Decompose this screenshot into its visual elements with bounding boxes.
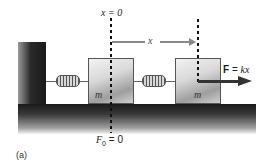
displacement-arrowhead-icon [189, 38, 196, 46]
floor [18, 104, 256, 134]
force-label: F = kx [223, 64, 249, 75]
spring-left-coil [56, 75, 80, 87]
panel-label: (a) [16, 150, 27, 160]
rest-force-label: F0 = 0 [96, 134, 123, 147]
spring-right-coil [142, 75, 166, 87]
mass-label: m [95, 89, 102, 100]
equilibrium-dashed-line [110, 18, 112, 133]
force-arrowhead-icon [238, 76, 252, 86]
mass-label: m [194, 89, 201, 100]
displacement-label: x [148, 35, 152, 46]
origin-label: x = 0 [101, 7, 122, 18]
displaced-dashed-line [197, 19, 199, 82]
force-arrow-shaft [198, 80, 240, 83]
displacement-line-left [112, 41, 145, 43]
displacement-line-right [160, 41, 191, 43]
